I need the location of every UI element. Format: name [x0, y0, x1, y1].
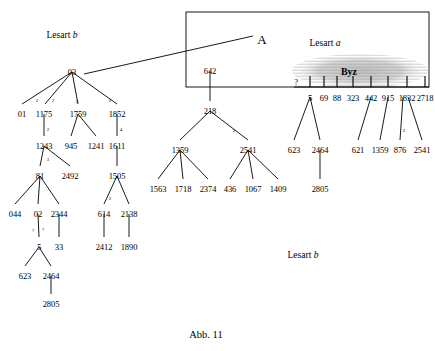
- node-621: 621: [352, 146, 364, 155]
- node-1175: 1175: [36, 110, 52, 119]
- node-01: 01: [18, 110, 26, 119]
- byz-witness-label-1832: 1832: [399, 94, 416, 103]
- node-2412: 2412: [96, 243, 113, 252]
- byz-witness-label-5: 5: [308, 94, 312, 103]
- figure-caption: Abb. 11: [189, 330, 222, 341]
- node-2464-left: 2464: [43, 272, 60, 281]
- connector-line-a: [84, 36, 253, 74]
- byz-witness-label-915: 915: [382, 94, 394, 103]
- connector-line: [84, 36, 253, 74]
- node-945: 945: [65, 142, 77, 151]
- byz-witness-label-442: 442: [365, 94, 377, 103]
- node-1890: 1890: [121, 243, 138, 252]
- node-2344: 2344: [51, 210, 68, 219]
- lesart-b-top-left-text: Lesart: [47, 30, 73, 40]
- edge-442-621: [358, 97, 371, 140]
- node-2138: 2138: [121, 210, 138, 219]
- lesart-b-bottom-right-text: Lesart: [288, 250, 314, 260]
- node-1505: 1505: [109, 172, 126, 181]
- lesart-b-top-left: Lesart b: [47, 31, 78, 41]
- edge-label-02-5-b: ?: [42, 227, 44, 232]
- node-436: 436: [224, 185, 236, 194]
- lesart-a-box-text: Lesart: [310, 38, 336, 48]
- edge-label-1175-1243: 2: [47, 127, 50, 132]
- byz-witness-label-323: 323: [347, 94, 359, 103]
- lesart-a-box-variant: a: [336, 38, 341, 48]
- edge-label-03-01: 2: [36, 98, 39, 103]
- tree-edges: [15, 71, 422, 294]
- lesart-b-bottom-right: Lesart b: [288, 251, 319, 261]
- edge-label-02-5-a: ?: [32, 228, 34, 233]
- node-33: 33: [55, 243, 63, 252]
- node-1611: 1611: [109, 142, 125, 151]
- node-2374: 2374: [200, 185, 217, 194]
- node-2492: 2492: [62, 172, 79, 181]
- node-03: 03: [68, 68, 76, 77]
- marker-a-label: A: [257, 33, 266, 46]
- byz-cloud-hatch: [292, 54, 428, 88]
- node-2805-left: 2805: [43, 300, 60, 309]
- edge-label-218-2541: 2: [233, 128, 236, 133]
- edge-label-1505-614: 2: [109, 196, 112, 201]
- node-044: 044: [9, 210, 21, 219]
- edge-label-03-1759: 2: [76, 99, 79, 104]
- node-1563: 1563: [150, 185, 167, 194]
- node-614: 614: [98, 210, 110, 219]
- lesart-b-top-left-variant: b: [73, 30, 78, 40]
- node-1359-right: 1359: [372, 146, 389, 155]
- node-1359-mid: 1359: [172, 146, 189, 155]
- node-1067: 1067: [245, 185, 262, 194]
- byz-witness-label-unknown: ?: [294, 78, 298, 87]
- node-2464-mid: 2464: [312, 146, 329, 155]
- byz-witness-label-88: 88: [333, 94, 341, 103]
- node-218: 218: [204, 107, 216, 116]
- byz-witness-label-69: 69: [320, 94, 328, 103]
- edge-label-03-1175: 2: [52, 98, 55, 103]
- byz-group-label: Byz: [341, 67, 357, 77]
- edge-label-1243-81: 3: [47, 157, 50, 162]
- node-1243: 1243: [36, 142, 53, 151]
- edge-label-1852-1611: 4: [120, 127, 123, 132]
- byz-witness-label-2718: 2718: [417, 94, 434, 103]
- node-02: 02: [34, 210, 42, 219]
- node-2805-mid: 2805: [312, 185, 329, 194]
- edge-5byz-623: [294, 97, 310, 140]
- node-623-left: 623: [19, 272, 31, 281]
- byz-cloud: [292, 54, 428, 88]
- node-1852: 1852: [109, 110, 126, 119]
- node-5-left: 5: [37, 243, 41, 252]
- node-1241: 1241: [88, 142, 105, 151]
- edge-915-1359: [380, 97, 388, 140]
- edge-label-03-1852: 2: [109, 98, 112, 103]
- node-642: 642: [204, 67, 216, 76]
- node-623-mid: 623: [288, 146, 300, 155]
- node-1759: 1759: [70, 110, 87, 119]
- node-876: 876: [394, 146, 406, 155]
- node-1409: 1409: [270, 185, 287, 194]
- edge-5byz-2464: [310, 97, 320, 140]
- edge-1832-2541: [408, 97, 422, 140]
- node-2541-mid: 2541: [240, 146, 257, 155]
- edge-1832-876: [400, 97, 403, 140]
- edge-label-1832-876: 2: [403, 128, 406, 133]
- node-1718: 1718: [175, 185, 192, 194]
- edge-03-01: [22, 72, 72, 104]
- lesart-a-box: Lesart a: [310, 39, 341, 49]
- node-81: 81: [36, 172, 44, 181]
- stemma-figure: 0301117517591852124394512411611812492150…: [0, 0, 435, 351]
- lesart-b-bottom-right-variant: b: [314, 250, 319, 260]
- node-2541-right: 2541: [414, 146, 431, 155]
